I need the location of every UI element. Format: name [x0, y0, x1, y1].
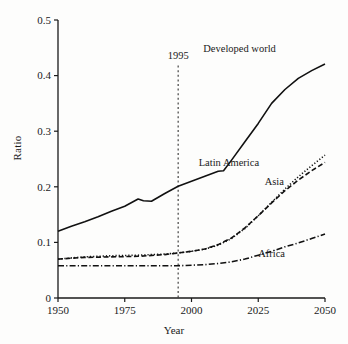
series-labels: Developed worldLatin AmericaAsiaAfrica	[199, 43, 286, 260]
axis-ticks	[54, 20, 325, 302]
series-label-asia: Asia	[265, 176, 285, 187]
y-tick-label: 0.1	[37, 236, 51, 248]
line-chart-plot: 00.10.20.30.40.519501975200020252050 199…	[0, 0, 348, 344]
data-series	[58, 64, 325, 266]
x-tick-label: 2050	[314, 304, 337, 316]
annotation-label-1995: 1995	[168, 50, 189, 61]
x-tick-label: 2025	[247, 304, 270, 316]
y-axis-label: Ratio	[11, 118, 23, 178]
series-line-asia	[58, 162, 325, 259]
x-tick-label: 1975	[114, 304, 137, 316]
chart-annotations: 1995	[168, 50, 189, 298]
x-tick-label: 2000	[181, 304, 204, 316]
y-tick-label: 0.3	[37, 125, 51, 137]
y-tick-label: 0.2	[37, 181, 51, 193]
x-tick-label: 1950	[47, 304, 70, 316]
series-line-developed-world	[58, 64, 325, 231]
series-label-developed-world: Developed world	[203, 43, 276, 54]
series-line-latin-america	[58, 155, 325, 259]
y-tick-label: 0.4	[37, 69, 51, 81]
x-axis-label: Year	[0, 324, 348, 336]
series-label-africa: Africa	[258, 248, 285, 259]
y-tick-label: 0.5	[37, 14, 51, 26]
y-tick-label: 0	[46, 292, 52, 304]
series-label-latin-america: Latin America	[199, 157, 260, 168]
chart-figure: 00.10.20.30.40.519501975200020252050 199…	[0, 0, 348, 344]
